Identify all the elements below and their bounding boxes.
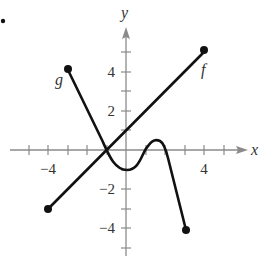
g-left-endpoint bbox=[64, 65, 72, 73]
y-axis-label: y bbox=[119, 4, 129, 22]
y-tick-label-2: 2 bbox=[108, 103, 116, 119]
g-right-endpoint bbox=[182, 226, 190, 234]
f-right-endpoint bbox=[200, 46, 208, 54]
x-tick-label-neg4: −4 bbox=[40, 161, 56, 177]
g-label: g bbox=[55, 71, 63, 89]
y-tick-label-neg4: −4 bbox=[99, 220, 115, 236]
f-left-endpoint bbox=[44, 205, 52, 213]
problem-bullet bbox=[1, 19, 5, 23]
x-axis-label: x bbox=[250, 141, 258, 158]
function-graph: −4 4 4 2 −2 −4 x y f g bbox=[0, 0, 259, 259]
x-tick-label-4: 4 bbox=[200, 161, 208, 177]
y-tick-label-neg2: −2 bbox=[99, 181, 115, 197]
y-tick-label-4: 4 bbox=[108, 64, 116, 80]
f-label: f bbox=[201, 61, 208, 79]
